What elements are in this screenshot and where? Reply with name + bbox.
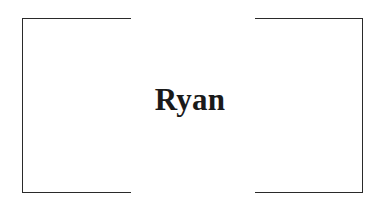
name-label: Ryan bbox=[0, 80, 380, 120]
